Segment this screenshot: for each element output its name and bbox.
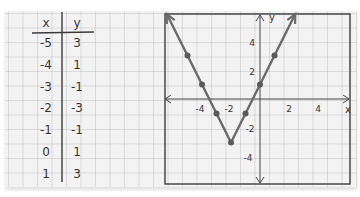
- table-cell-x: -4: [40, 58, 52, 72]
- table-cell-x: -3: [40, 80, 52, 94]
- y-tick-2: 2: [249, 67, 255, 77]
- table-header-underline: [32, 32, 94, 33]
- x-axis-label: x: [345, 104, 351, 115]
- table-cell-x: -1: [40, 123, 52, 137]
- table-cell-y: 3: [73, 167, 81, 181]
- data-point: [228, 140, 234, 146]
- table-header-y: y: [73, 16, 80, 30]
- data-point: [272, 53, 278, 59]
- table-cell-x: -5: [40, 36, 52, 50]
- figure: x y -53-41-3-1-2-3-1-10113 y x -4 -2 2 4…: [0, 0, 360, 197]
- function-line: [167, 14, 296, 143]
- data-point: [199, 82, 205, 88]
- y-tick-neg2: -2: [246, 124, 255, 134]
- y-tick-4: 4: [249, 38, 255, 48]
- table-cell-x: 1: [42, 167, 50, 181]
- table-header-x: x: [42, 16, 49, 30]
- table-cell-y: -1: [71, 123, 83, 137]
- x-tick-neg2: -2: [225, 104, 234, 114]
- x-tick-2: 2: [286, 104, 292, 114]
- table-cell-y: 1: [73, 58, 81, 72]
- v-shaped-line: [167, 14, 296, 143]
- x-tick-neg4: -4: [196, 104, 205, 114]
- y-tick-neg4: -4: [244, 153, 253, 163]
- x-tick-4: 4: [315, 104, 321, 114]
- table-cell-y: 3: [73, 36, 81, 50]
- table-cell-x: -2: [40, 101, 52, 115]
- graph: y x -4 -2 2 4 4 2 -2 -4: [165, 12, 351, 184]
- table-cell-y: -3: [71, 101, 83, 115]
- data-point: [243, 111, 249, 117]
- data-point: [257, 82, 263, 88]
- table-cell-x: 0: [42, 145, 50, 159]
- data-point: [214, 111, 220, 117]
- table-cell-y: 1: [73, 145, 81, 159]
- data-point: [185, 53, 191, 59]
- xy-table: x y -53-41-3-1-2-3-1-10113: [32, 12, 94, 182]
- table-cell-y: -1: [71, 80, 83, 94]
- y-axis-label: y: [269, 12, 275, 23]
